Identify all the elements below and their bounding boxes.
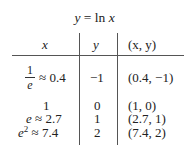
row4-y: 2 [94, 126, 101, 139]
row1-y: −1 [90, 71, 104, 84]
row3-y: 1 [94, 112, 101, 125]
row4-x: e2 ≈ 7.4 [18, 126, 58, 139]
fraction-one-over-e: 1 e [25, 64, 35, 91]
header-divider [12, 55, 184, 56]
row3-x: e ≈ 2.7 [26, 112, 62, 125]
title-rhs: x [109, 10, 115, 25]
row4-x-approx: ≈ 7.4 [28, 125, 58, 140]
header-x: x [42, 38, 48, 51]
fraction-denominator: e [25, 79, 35, 91]
column-divider-2 [117, 33, 118, 145]
row1-x-approx: ≈ 0.4 [39, 71, 66, 84]
table-title: y = ln x [0, 10, 189, 26]
row4-point: (7.4, 2) [128, 126, 166, 139]
title-eq: = ln [80, 10, 108, 25]
row1-point: (0.4, −1) [128, 71, 173, 84]
header-y: y [93, 38, 99, 51]
fraction-numerator: 1 [25, 64, 35, 76]
column-divider-1 [79, 33, 80, 145]
row3-point: (2.7, 1) [128, 112, 166, 125]
row3-x-approx: ≈ 2.7 [32, 111, 62, 126]
header-point: (x, y) [128, 38, 156, 51]
